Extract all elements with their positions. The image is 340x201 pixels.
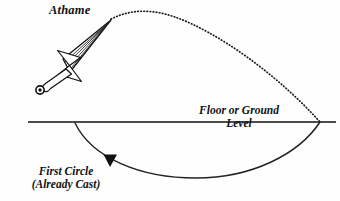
label-first-circle: First Circle(Already Cast): [8, 165, 124, 191]
label-ground-line1: Floor or Ground: [199, 104, 279, 116]
label-athame: Athame: [49, 3, 90, 17]
label-floor-or-ground-level: Floor or GroundLevel: [186, 104, 292, 130]
label-first-circle-line1: First Circle: [39, 165, 94, 177]
label-first-circle-line2: (Already Cast): [8, 178, 124, 191]
athame-dagger: [36, 20, 111, 94]
athame-pommel-core: [38, 88, 41, 91]
label-ground-line2: Level: [186, 117, 292, 130]
athame-handle: [42, 69, 71, 92]
diagram-canvas: Athame Floor or GroundLevel First Circle…: [0, 0, 340, 201]
